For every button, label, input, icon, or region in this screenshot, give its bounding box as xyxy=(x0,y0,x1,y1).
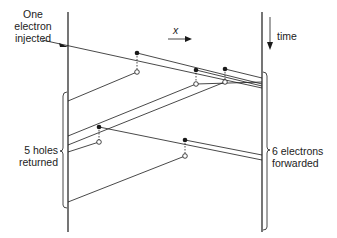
hole-dot xyxy=(183,154,188,159)
time-axis-label: time xyxy=(277,30,297,42)
hole-dot xyxy=(194,82,199,87)
injected-electron-path xyxy=(42,40,262,88)
x-axis-label: x xyxy=(173,24,178,36)
hole-dot xyxy=(97,140,102,145)
hole-path xyxy=(68,156,185,202)
holes-brace xyxy=(60,92,67,208)
electron-path xyxy=(99,127,262,160)
x-arrowhead xyxy=(185,36,192,42)
electron-dot xyxy=(97,125,102,130)
electron-path xyxy=(185,140,262,155)
injected-label: One electron injected xyxy=(8,8,58,44)
hole-dot xyxy=(223,80,228,85)
electron-path xyxy=(225,69,262,78)
hole-path xyxy=(68,84,196,136)
electron-dots xyxy=(97,51,228,143)
electron-dot xyxy=(135,51,140,56)
electron-dot xyxy=(194,68,199,73)
electrons-label: 6 electrons forwarded xyxy=(272,145,323,169)
time-arrowhead xyxy=(267,42,273,50)
electron-dot xyxy=(223,67,228,72)
holes-label: 5 holes returned xyxy=(0,144,58,168)
electron-dot xyxy=(183,138,188,143)
electrons-brace xyxy=(263,72,270,230)
hole-path xyxy=(68,72,137,101)
electron-path xyxy=(137,53,262,84)
hole-dot xyxy=(135,70,140,75)
